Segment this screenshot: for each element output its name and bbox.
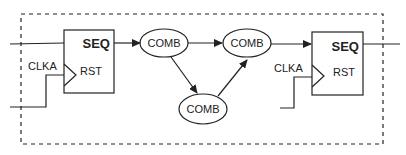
svg-text:COMB: COMB: [231, 37, 264, 49]
seq-right-title: SEQ: [332, 39, 359, 54]
timing-path-diagram: SEQ RST CLKA SEQ RST CLKA COMB COMB COMB: [0, 0, 406, 155]
edge-comb1-to-comb3: [171, 57, 197, 93]
seq-left-register: SEQ RST: [64, 30, 114, 93]
data-input-wire: [10, 43, 64, 44]
seq-left-reset-label: RST: [80, 65, 102, 77]
clock-wire-right: [280, 77, 312, 108]
clka-right-label: CLKA: [274, 62, 303, 74]
clka-left-label: CLKA: [28, 60, 57, 72]
seq-left-title: SEQ: [83, 36, 110, 51]
seq-right-reset-label: RST: [333, 66, 355, 78]
comb-node-2: COMB: [223, 29, 271, 57]
edge-comb3-to-comb2: [218, 60, 247, 96]
clock-wire-left: [10, 75, 64, 107]
svg-text:COMB: COMB: [148, 37, 181, 49]
comb-node-3: COMB: [179, 94, 227, 124]
svg-text:COMB: COMB: [187, 103, 220, 115]
seq-right-register: SEQ RST: [312, 32, 363, 95]
comb-node-1: COMB: [140, 29, 188, 57]
